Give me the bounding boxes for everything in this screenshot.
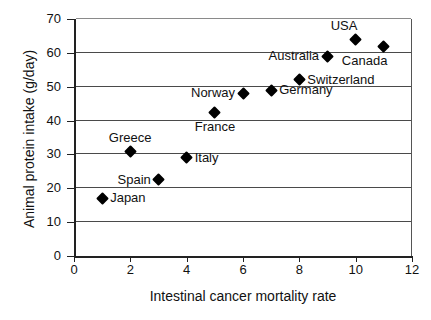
x-tick-label-2: 2 xyxy=(115,263,145,277)
data-label-switzerland: Switzerland xyxy=(307,73,374,87)
x-tick-label-8: 8 xyxy=(284,263,314,277)
data-label-norway: Norway xyxy=(191,86,235,100)
y-tick-label-30: 30 xyxy=(33,147,61,160)
x-axis-title: Intestinal cancer mortality rate xyxy=(74,288,412,304)
y-tick-label-60: 60 xyxy=(33,46,61,59)
y-tick-label-40: 40 xyxy=(33,114,61,127)
data-label-usa: USA xyxy=(331,19,358,33)
y-tick-label-50: 50 xyxy=(33,80,61,93)
gridline-y-10 xyxy=(76,221,411,222)
data-label-italy: Italy xyxy=(195,151,219,165)
data-label-france: France xyxy=(195,120,235,134)
x-tick-label-0: 0 xyxy=(59,263,89,277)
gridline-y-70 xyxy=(76,18,411,19)
y-tick-40 xyxy=(67,121,74,122)
y-tick-label-10: 10 xyxy=(33,215,61,228)
x-tick-label-10: 10 xyxy=(341,263,371,277)
y-tick-label-20: 20 xyxy=(33,181,61,194)
gridline-y-20 xyxy=(76,187,411,188)
x-tick-label-12: 12 xyxy=(397,263,427,277)
y-tick-10 xyxy=(67,222,74,223)
y-axis-title: Animal protein intake (g/day) xyxy=(21,24,37,254)
y-tick-20 xyxy=(67,188,74,189)
y-tick-30 xyxy=(67,154,74,155)
x-tick-label-6: 6 xyxy=(228,263,258,277)
x-tick-label-4: 4 xyxy=(172,263,202,277)
data-label-canada: Canada xyxy=(342,54,388,68)
y-tick-label-0: 0 xyxy=(33,249,61,262)
y-tick-0 xyxy=(67,256,74,257)
data-label-japan: Japan xyxy=(110,191,145,205)
data-label-spain: Spain xyxy=(118,173,151,187)
gridline-y-40 xyxy=(76,120,411,121)
y-tick-50 xyxy=(67,87,74,88)
data-label-greece: Greece xyxy=(109,131,152,145)
y-tick-60 xyxy=(67,53,74,54)
y-tick-70 xyxy=(67,19,74,20)
y-tick-label-70: 70 xyxy=(33,12,61,25)
scatter-chart: 010203040506070 024681012 JapanGreeceSpa… xyxy=(0,0,431,320)
data-label-australia: Australia xyxy=(269,49,320,63)
